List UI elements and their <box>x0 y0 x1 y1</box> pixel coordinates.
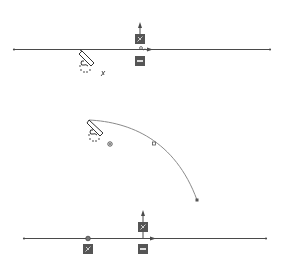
line-endpoint-right <box>265 237 267 239</box>
line-endpoint-left <box>23 237 25 239</box>
pencil-cursor-icon <box>79 50 94 73</box>
arrow-up-icon <box>141 210 145 222</box>
midpoint-marker-icon <box>153 142 156 145</box>
point-marker-icon <box>108 142 112 146</box>
sketch-canvas <box>0 0 283 269</box>
horizontal-constraint-icon[interactable] <box>135 56 145 66</box>
horizontal-constraint-icon[interactable] <box>138 244 148 254</box>
arrow-right-icon <box>147 48 153 52</box>
endpoint-marker-icon <box>196 199 199 202</box>
bottom-panel <box>23 210 267 254</box>
arrow-right-icon <box>150 237 156 241</box>
coincident-icon <box>140 47 147 50</box>
relation-icon <box>101 71 105 76</box>
point-marker-icon <box>86 236 91 241</box>
arrow-up-icon <box>138 22 142 34</box>
constraint-badge-icon[interactable] <box>135 34 145 44</box>
tangent-arc <box>89 120 197 200</box>
middle-panel <box>87 120 199 202</box>
line-endpoint-right <box>269 48 271 50</box>
constraint-badge-icon[interactable] <box>83 244 93 254</box>
line-endpoint-left <box>13 48 15 50</box>
constraint-badge-icon[interactable] <box>138 222 148 232</box>
pencil-cursor-icon <box>87 120 103 142</box>
top-panel <box>13 22 271 76</box>
